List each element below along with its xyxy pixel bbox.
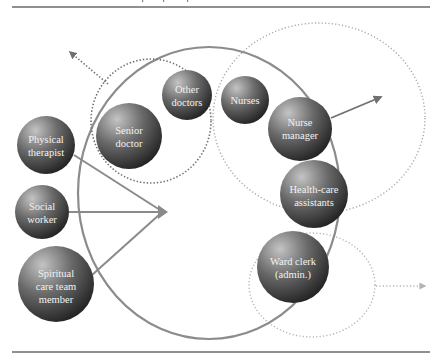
- nurse-manager-outward-arrow: [331, 97, 381, 118]
- node-social-worker[interactable]: Socialworker: [15, 185, 69, 239]
- svg-text:Nurses: Nurses: [230, 95, 259, 106]
- node-senior-doctor[interactable]: Seniordoctor: [96, 103, 162, 169]
- team-diagram: Physicaltherapist Seniordoctor Otherdoct…: [0, 0, 445, 361]
- node-ward-clerk[interactable]: Ward clerk(admin.): [257, 231, 329, 303]
- node-nurses[interactable]: Nurses: [221, 76, 269, 124]
- converging-arrowhead: [158, 205, 168, 219]
- svg-text:Spiritualcare teammember: Spiritualcare teammember: [36, 268, 77, 305]
- svg-text:Ward clerk(admin.): Ward clerk(admin.): [270, 256, 317, 281]
- cut-off-caption: [142, 0, 188, 2]
- node-health-care-assistants[interactable]: Health-careassistants: [280, 160, 348, 228]
- node-nurse-manager[interactable]: Nursemanager: [268, 97, 332, 161]
- doctors-outward-arrow: [70, 52, 108, 84]
- node-other-doctors[interactable]: Otherdoctors: [162, 70, 212, 120]
- node-spiritual-care-team-member[interactable]: Spiritualcare teammember: [18, 246, 94, 322]
- node-physical-therapist[interactable]: Physicaltherapist: [17, 116, 75, 174]
